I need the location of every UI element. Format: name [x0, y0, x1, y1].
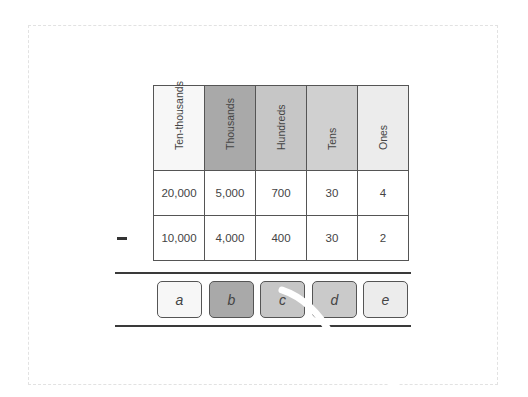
column-label: Hundreds	[275, 104, 287, 150]
answer-box-label: b	[228, 292, 236, 308]
column-label: Ones	[377, 125, 389, 150]
table-row: 10,000 4,000 400 30 2	[154, 216, 409, 261]
cell: 400	[256, 216, 307, 261]
cell: 5,000	[205, 171, 256, 216]
header-row: Ten-thousands Thousands Hundreds Tens On…	[154, 86, 409, 171]
header-thousands: Thousands	[205, 86, 256, 171]
frame-gap	[388, 384, 398, 387]
column-label: Ten-thousands	[173, 81, 185, 150]
answer-box-c: c	[260, 281, 305, 318]
cell: 4,000	[205, 216, 256, 261]
cell: 30	[307, 216, 358, 261]
header-hundreds: Hundreds	[256, 86, 307, 171]
answer-rule-bottom	[115, 325, 411, 327]
header-tens: Tens	[307, 86, 358, 171]
answer-box-label: e	[382, 292, 390, 308]
answer-box-a: a	[157, 281, 202, 318]
answer-box-e: e	[363, 281, 408, 318]
minus-sign	[117, 237, 127, 240]
column-label: Tens	[326, 128, 338, 150]
answer-rule-top	[115, 272, 411, 274]
column-label: Thousands	[224, 98, 236, 150]
cell: 20,000	[154, 171, 205, 216]
cell: 700	[256, 171, 307, 216]
table-row: 20,000 5,000 700 30 4	[154, 171, 409, 216]
cell: 30	[307, 171, 358, 216]
answer-box-b: b	[209, 281, 254, 318]
cell: 10,000	[154, 216, 205, 261]
header-ones: Ones	[358, 86, 409, 171]
header-ten-thousands: Ten-thousands	[154, 86, 205, 171]
answer-box-label: d	[331, 292, 339, 308]
answer-box-d: d	[312, 281, 357, 318]
place-value-table: Ten-thousands Thousands Hundreds Tens On…	[153, 85, 409, 261]
cell: 2	[358, 216, 409, 261]
answer-box-label: a	[176, 292, 184, 308]
cell: 4	[358, 171, 409, 216]
answer-box-label: c	[279, 292, 286, 308]
